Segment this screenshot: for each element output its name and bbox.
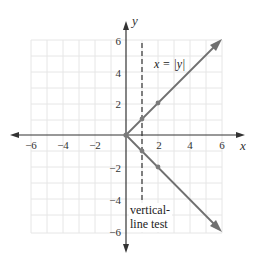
x-tick: 6 xyxy=(219,139,225,151)
x-tick: −4 xyxy=(57,139,69,151)
y-tick: 6 xyxy=(116,35,122,47)
annotation-line1: vertical- xyxy=(130,203,170,217)
point-2-2 xyxy=(156,101,161,106)
y-tick: 2 xyxy=(116,98,122,110)
y-axis-down-arrow-icon xyxy=(123,244,129,253)
x-axis-label: x xyxy=(239,138,246,153)
y-tick: −4 xyxy=(109,194,121,206)
annotation-line2: line test xyxy=(130,217,168,231)
point-2-neg2 xyxy=(156,165,161,170)
point-1-neg1 xyxy=(140,149,145,154)
y-tick: −2 xyxy=(109,162,121,174)
graph-canvas: −6 −4 −2 2 4 6 6 4 2 −2 −4 −6 x y x = |y… xyxy=(0,0,262,267)
point-1-1 xyxy=(140,117,145,122)
y-tick: 4 xyxy=(116,67,122,79)
equation-label: x = |y| xyxy=(153,57,185,71)
x-tick: −6 xyxy=(25,139,37,151)
x-tick: −2 xyxy=(89,139,101,151)
x-tick-labels: −6 −4 −2 2 4 6 xyxy=(25,139,225,151)
x-tick: 4 xyxy=(187,139,193,151)
point-origin xyxy=(123,132,128,137)
x-tick: 2 xyxy=(156,139,162,151)
x-axis-left-arrow-icon xyxy=(10,132,19,138)
y-axis-label: y xyxy=(130,13,138,28)
y-tick: −6 xyxy=(109,226,121,238)
y-axis-up-arrow-icon xyxy=(123,21,129,30)
